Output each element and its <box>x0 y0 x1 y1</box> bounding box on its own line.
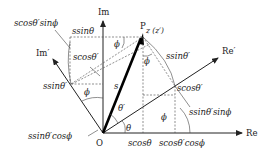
im-prime-axis <box>53 59 103 133</box>
re-prime-axis-label: Re′ <box>222 46 235 56</box>
phi-right-label: ϕ <box>144 56 150 66</box>
theta-label: θ <box>126 123 131 133</box>
label-scos-thetap-top: scosθ′ <box>73 52 99 62</box>
im-axis-label: Im <box>98 7 109 17</box>
arc-theta <box>122 121 125 133</box>
origin-label: O <box>96 138 103 148</box>
label-ssin-thetap-cos-phi: ssinθ′cosϕ <box>28 131 72 141</box>
re-axis-label: Re <box>246 128 257 138</box>
label-ssin-theta-top: ssinθ <box>72 26 94 36</box>
phi-left-label: ϕ <box>84 87 90 97</box>
leader-scos-sin <box>55 30 70 48</box>
label-scos-thetap-cos-phi: scosθ′cosϕ <box>159 138 205 148</box>
point-p-coord: z (z′) <box>145 26 164 35</box>
phi-bottom-label: ϕ <box>161 112 167 122</box>
label-ssin-thetap-right: ssinθ′ <box>166 51 190 61</box>
arc-phi-left <box>82 97 103 101</box>
coordinate-rotation-diagram: Re Im Re′ Im′ O P z (z′) s θ θ′ ϕ ϕ ϕ ϕ … <box>0 0 272 151</box>
proj-mid-diag <box>72 44 150 84</box>
arc-left <box>68 42 71 84</box>
phi-top-label: ϕ <box>114 39 120 49</box>
label-scos-thetap-sin-phi: scosθ′sinϕ <box>14 18 58 28</box>
arc-phi-top <box>122 37 124 48</box>
label-ssin-thetap-sin-phi: ssinθ′sinϕ <box>189 107 232 117</box>
vector-s-label: s <box>114 81 119 91</box>
leader-ssin-cos <box>88 130 98 136</box>
theta-prime-label: θ′ <box>118 103 125 113</box>
label-scos-thetap-right: scosθ′ <box>177 83 203 93</box>
label-ssin-thetap-left: ssinθ′ <box>43 81 67 91</box>
vector-s <box>103 38 141 133</box>
label-scos-theta: scosθ <box>128 138 152 148</box>
im-prime-axis-label: Im′ <box>36 48 49 58</box>
